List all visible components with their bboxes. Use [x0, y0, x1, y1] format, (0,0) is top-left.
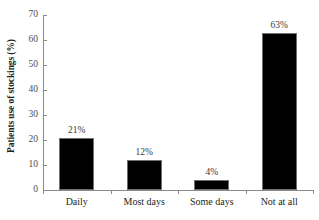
- y-tick-mark: [43, 40, 47, 41]
- y-tick-mark: [43, 15, 47, 16]
- x-tick-mark: [43, 190, 44, 194]
- bar-value-label: 63%: [249, 20, 309, 30]
- bar-value-label: 4%: [182, 167, 242, 177]
- bar: [59, 138, 94, 191]
- bar: [127, 160, 162, 190]
- y-tick-mark: [43, 140, 47, 141]
- bar-value-label: 21%: [47, 125, 107, 135]
- y-tick-label: 60: [16, 35, 38, 45]
- x-tick-mark: [246, 190, 247, 194]
- y-tick-label: 0: [16, 185, 38, 195]
- x-category-label: Not at all: [239, 196, 319, 208]
- x-tick-mark: [313, 190, 314, 194]
- y-tick-mark: [43, 90, 47, 91]
- y-tick-label: 20: [16, 135, 38, 145]
- y-tick-label: 50: [16, 60, 38, 70]
- y-tick-label: 40: [16, 85, 38, 95]
- x-tick-mark: [178, 190, 179, 194]
- bar: [262, 33, 297, 191]
- y-tick-mark: [43, 115, 47, 116]
- y-tick-label: 30: [16, 110, 38, 120]
- y-tick-mark: [43, 65, 47, 66]
- bar-value-label: 12%: [114, 147, 174, 157]
- y-tick-label: 70: [16, 10, 38, 20]
- bar: [194, 180, 229, 190]
- x-tick-mark: [111, 190, 112, 194]
- bar-chart: Patients use of stockings (%) 0102030405…: [0, 0, 319, 220]
- y-tick-mark: [43, 165, 47, 166]
- y-tick-label: 10: [16, 160, 38, 170]
